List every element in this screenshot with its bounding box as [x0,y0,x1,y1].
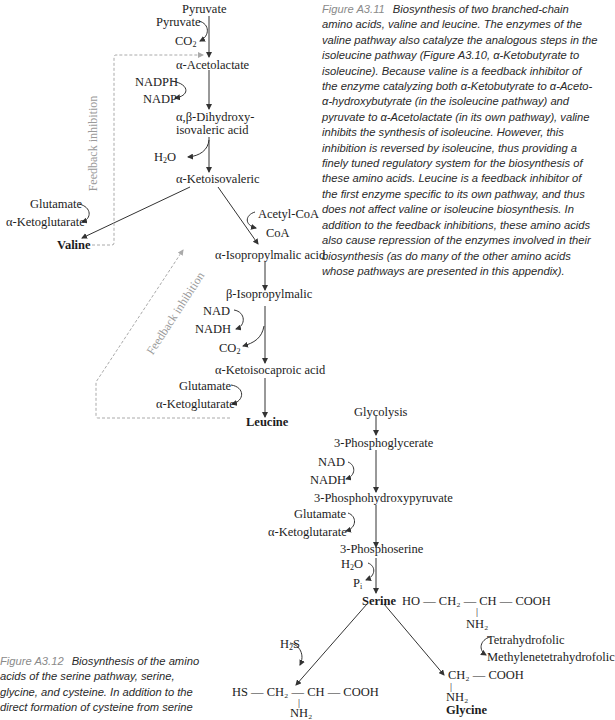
ketoglutarate-label: α-Ketoglutarate [6,215,85,229]
figure-caption-a3-11: Figure A3.11Biosynthesis of two branched… [322,2,598,279]
glutamate-label-serine: Glutamate [294,507,346,521]
pyruvate-label: Pyruvate [182,2,226,16]
acetolactate-label: α-Acetolactate [176,58,249,72]
dihydroxy-label: α,β-Dihydroxy- [176,110,255,124]
leucine-label: Leucine [246,415,288,429]
ketoglutarate-label-2: α-Ketoglutarate [156,397,235,411]
coa-label: CoA [266,226,290,240]
nad-label-serine: NAD [318,455,345,469]
co2-label: CO2 [175,34,196,48]
ketoisocaproic-label: α-Ketoisocaproic acid [215,363,325,377]
nadp-label: NADP [143,92,177,106]
nad-label: NAD [203,304,230,318]
phosphoserine-label: 3-Phosphoserine [340,542,423,556]
valine-label: Valine [57,238,91,252]
glycine-nh2: NH₂ [446,690,468,704]
figure-caption-a3-12: Figure A3.12Biosynthesis of the amino ac… [0,654,200,716]
ketoisovaleric-label: α-Ketoisovaleric [176,172,260,186]
cysteine-nh2: NH₂ [290,706,312,720]
glutamate-label: Glutamate [30,197,82,211]
caption-line: glycine, and cysteine. In addition to th… [0,685,200,700]
methylenetetrahydrofolic-label: Methylenetetrahydrofolic [487,650,615,664]
h2s-label: H2S [280,637,300,651]
caption-line: direct formation of cysteine from serine [0,700,200,715]
caption-line: Biosynthesis of the amino [72,655,199,667]
phosphoglycerate-label: 3-Phosphoglycerate [334,436,433,450]
pi-label: Pi [353,576,362,590]
glutamate-label-2: Glutamate [179,379,231,393]
ketoglutarate-label-serine: α-Ketoglutarate [268,525,347,539]
cysteine-formula: HS — CH₂ — CH — COOH [232,685,379,699]
tetrahydrofolic-label: Tetrahydrofolic [487,633,565,647]
glycine-formula: CH₂ — COOH [448,668,524,682]
alpha-isopropylmalic-label: α-Isopropylmalic acid [215,248,325,262]
isovaleric-acid-label: isovaleric acid [176,123,249,137]
glycine-label: Glycine [446,703,487,717]
acetyl-coa-label: Acetyl-CoA [258,207,319,221]
beta-isopropylmalic-label: β-Isopropylmalic [226,287,312,301]
figure-label: Figure A3.11 [322,3,385,15]
caption-line: acids of the serine pathway, serine, [0,669,200,684]
nadh-label: NADH [195,322,231,336]
nadh-label-serine: NADH [310,473,346,487]
h2o-label: H2O [154,150,176,164]
serine-nh2: NH₂ [466,617,488,631]
caption-text: Biosynthesis of two branched-chain amino… [322,3,598,277]
feedback-inhibition-label: Feedback inhibition [86,96,101,192]
figure-label-2: Figure A3.12 [0,655,64,667]
pyruvate-input-label: Pyruvate [156,15,200,29]
serine-label: Serine [362,594,396,608]
glycolysis-label: Glycolysis [354,405,407,419]
co2-label-2: CO2 [219,341,240,355]
nadph-label: NADPH [135,75,178,89]
phosphohydroxypyruvate-label: 3-Phosphohydroxypyruvate [314,491,453,505]
h2o-label-serine: H2O [341,557,363,571]
